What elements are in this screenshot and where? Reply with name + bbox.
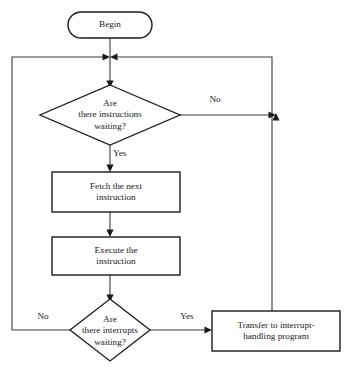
node-execute-shape <box>52 237 180 275</box>
node-instructions-decision-shape <box>40 85 180 145</box>
arrowhead-into-execute <box>106 230 113 238</box>
node-fetch-shape <box>52 172 180 212</box>
arrowhead-right-loop-into-junction <box>110 53 118 60</box>
edge-label-interrupts-yes: Yes <box>172 311 202 321</box>
flowchart-svg <box>0 0 351 379</box>
arrowhead-left-loop-into-junction <box>103 53 111 60</box>
flowchart-canvas: Begin Are there instructions waiting? Fe… <box>0 0 351 379</box>
node-transfer-shape <box>212 311 340 351</box>
arrowhead-into-transfer <box>205 326 213 333</box>
edge-label-interrupts-no: No <box>28 311 58 321</box>
arrowhead-into-fetch <box>106 165 113 173</box>
node-interrupts-decision-shape <box>70 299 150 361</box>
edge-label-instructions-no: No <box>200 94 230 104</box>
edge-label-instructions-yes: Yes <box>113 148 141 158</box>
node-begin-shape <box>68 12 152 38</box>
